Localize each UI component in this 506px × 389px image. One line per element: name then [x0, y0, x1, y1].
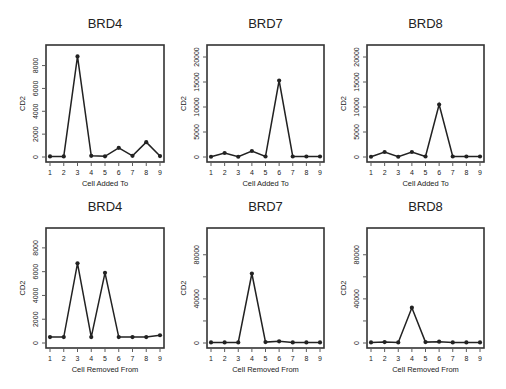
data-point	[62, 154, 66, 158]
data-point	[223, 340, 227, 344]
y-tick-label: 6000	[32, 81, 39, 97]
chart-panel-4: BRD4123456789Cell Removed From0200040006…	[18, 199, 164, 374]
x-tick-label: 7	[291, 169, 295, 176]
data-point	[369, 340, 373, 344]
data-point	[318, 154, 322, 158]
data-point	[130, 154, 134, 158]
y-tick-label: 20000	[193, 47, 200, 67]
x-tick-label: 8	[464, 355, 468, 362]
series-line	[211, 81, 320, 157]
y-axis-label: CD2	[339, 280, 348, 295]
x-tick-label: 6	[437, 169, 441, 176]
x-tick-label: 4	[410, 355, 414, 362]
x-tick-label: 5	[424, 355, 428, 362]
x-tick-label: 9	[158, 169, 162, 176]
data-point	[236, 155, 240, 159]
x-tick-label: 9	[318, 169, 322, 176]
chart-panel-3: BRD8123456789Cell Added To05000100001500…	[339, 16, 484, 188]
y-tick-label: 0	[353, 155, 360, 159]
y-tick-label: 5000	[353, 124, 360, 140]
x-tick-label: 1	[48, 355, 52, 362]
data-point	[263, 340, 267, 344]
chart-title: BRD8	[408, 16, 443, 31]
chart-title: BRD4	[88, 16, 123, 31]
x-tick-label: 3	[396, 169, 400, 176]
x-tick-label: 2	[223, 169, 227, 176]
y-tick-label: 6000	[32, 264, 39, 280]
data-point	[437, 340, 441, 344]
data-point	[291, 154, 295, 158]
y-axis-label: CD2	[18, 96, 27, 111]
y-tick-label: 5000	[193, 124, 200, 140]
y-tick-label: 8000	[32, 58, 39, 74]
data-point	[464, 154, 468, 158]
chart-title: BRD8	[408, 199, 443, 214]
data-point	[291, 340, 295, 344]
y-tick-label: 40000	[193, 289, 200, 309]
x-axis-label: Cell Removed From	[392, 365, 459, 374]
data-point	[410, 150, 414, 154]
x-tick-label: 3	[236, 355, 240, 362]
data-point	[478, 154, 482, 158]
data-point	[236, 340, 240, 344]
y-tick-label: 0	[193, 341, 200, 345]
data-point	[318, 340, 322, 344]
y-tick-label: 0	[193, 155, 200, 159]
chart-title: BRD4	[88, 199, 123, 214]
x-tick-label: 8	[304, 355, 308, 362]
y-axis-label: CD2	[179, 96, 188, 111]
y-tick-label: 0	[32, 155, 39, 159]
x-axis-label: Cell Added To	[402, 179, 448, 188]
data-point	[464, 340, 468, 344]
x-tick-label: 9	[318, 355, 322, 362]
data-point	[144, 335, 148, 339]
y-tick-label: 10000	[353, 97, 360, 117]
x-tick-label: 2	[62, 169, 66, 176]
x-tick-label: 8	[144, 169, 148, 176]
chart-panel-6: BRD8123456789Cell Removed From0400008000…	[339, 199, 484, 374]
data-point	[304, 340, 308, 344]
x-tick-label: 1	[369, 355, 373, 362]
data-point	[396, 340, 400, 344]
y-tick-label: 15000	[193, 72, 200, 92]
x-tick-label: 6	[117, 355, 121, 362]
data-point	[451, 154, 455, 158]
plot-frame	[207, 228, 324, 348]
x-tick-label: 5	[103, 169, 107, 176]
x-tick-label: 1	[48, 169, 52, 176]
data-point	[410, 306, 414, 310]
data-point	[223, 151, 227, 155]
y-tick-label: 0	[353, 341, 360, 345]
x-tick-label: 1	[209, 355, 213, 362]
x-tick-label: 3	[396, 355, 400, 362]
series-line	[50, 56, 160, 156]
x-tick-label: 8	[144, 355, 148, 362]
y-tick-label: 80000	[353, 245, 360, 265]
data-point	[263, 154, 267, 158]
x-axis-label: Cell Added To	[82, 179, 128, 188]
x-axis-label: Cell Removed From	[72, 365, 139, 374]
x-tick-label: 3	[76, 169, 80, 176]
x-tick-label: 2	[223, 355, 227, 362]
x-tick-label: 4	[89, 355, 93, 362]
plot-frame	[46, 45, 164, 162]
series-line	[371, 105, 480, 157]
y-tick-label: 10000	[193, 97, 200, 117]
y-tick-label: 15000	[353, 72, 360, 92]
data-point	[209, 155, 213, 159]
x-tick-label: 4	[410, 169, 414, 176]
figure-panel-grid: BRD4123456789Cell Added To02000400060008…	[0, 0, 506, 389]
series-line	[211, 274, 320, 343]
data-point	[103, 154, 107, 158]
x-tick-label: 5	[103, 355, 107, 362]
x-tick-label: 7	[291, 355, 295, 362]
y-tick-label: 4000	[32, 288, 39, 304]
x-tick-label: 2	[62, 355, 66, 362]
x-tick-label: 6	[277, 355, 281, 362]
data-point	[423, 340, 427, 344]
x-tick-label: 9	[478, 355, 482, 362]
y-axis-label: CD2	[179, 280, 188, 295]
x-tick-label: 4	[250, 169, 254, 176]
y-tick-label: 2000	[32, 126, 39, 142]
x-tick-label: 7	[131, 355, 135, 362]
